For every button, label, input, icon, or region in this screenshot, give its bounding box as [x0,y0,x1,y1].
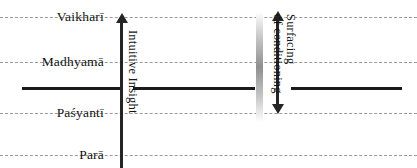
surfacing-arrow-head-down [272,104,284,114]
levels-of-speech-diagram: Vaikharī Madhyamā Paśyantī Parā Intuitiv… [0,0,417,168]
level-label-vaikhari: Vaikharī [0,10,104,24]
intuitive-insight-arrow-shaft [120,22,123,168]
level-label-madhyama: Madhyamā [0,55,104,69]
level-label-para: Parā [0,148,104,162]
intuitive-insight-label: Intuitive Insight [126,30,139,114]
surfacing-label-line-1: Surfacing [284,14,297,94]
threshold-line-segment-left [22,87,122,90]
threshold-line-segment-right [291,87,402,90]
level-label-pasyanti: Paśyantī [0,106,104,120]
intuitive-insight-arrow-head-up [116,13,128,23]
surfacing-of-conditioning-label: Surfacing of conditioning [272,14,298,94]
surfacing-label-line-2: of conditioning [272,14,285,94]
threshold-line-segment-middle [133,87,255,90]
conditioning-gradient-band [256,12,263,122]
